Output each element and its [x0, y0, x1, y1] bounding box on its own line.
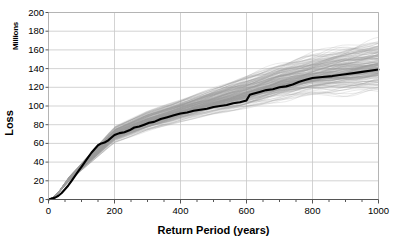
- y-tick-label: 120: [14, 82, 44, 91]
- x-tick-label: 800: [293, 206, 333, 215]
- x-tick-label: 200: [95, 206, 135, 215]
- y-tick-label: 20: [14, 176, 44, 185]
- y-tick-label: 40: [14, 157, 44, 166]
- y-tick-label: 160: [14, 45, 44, 54]
- x-tick-label: 400: [161, 206, 201, 215]
- y-tick-label: 0: [14, 195, 44, 204]
- x-tick-label: 1000: [359, 206, 399, 215]
- simulation-curves: [49, 37, 379, 199]
- y-tick-label: 100: [14, 101, 44, 110]
- y-tick-label: 80: [14, 120, 44, 129]
- y-tick-label: 200: [14, 8, 44, 17]
- y-tick-label: 180: [14, 26, 44, 35]
- x-tick-label: 600: [227, 206, 267, 215]
- y-tick-label: 140: [14, 64, 44, 73]
- loss-exceedance-chart: Millions Loss Return Period (years) 2001…: [0, 0, 410, 244]
- y-tick-label: 60: [14, 138, 44, 147]
- x-tick-label: 0: [29, 206, 69, 215]
